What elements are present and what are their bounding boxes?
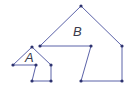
polygon-b <box>40 6 122 81</box>
shape-a-label: A <box>24 50 34 65</box>
vertex-point <box>89 44 92 47</box>
shape-b-label: B <box>73 24 82 39</box>
vertex-point <box>34 63 37 66</box>
diagram-canvas: A B <box>0 0 133 86</box>
vertex-point <box>11 63 14 66</box>
vertex-point <box>30 79 33 82</box>
vertex-point <box>79 4 82 7</box>
vertex-point <box>120 44 123 47</box>
vertex-point <box>79 79 82 82</box>
vertex-point <box>49 63 52 66</box>
vertex-point <box>49 79 52 82</box>
vertex-point <box>38 44 41 47</box>
vertex-point <box>120 79 123 82</box>
vertex-point <box>30 45 33 48</box>
